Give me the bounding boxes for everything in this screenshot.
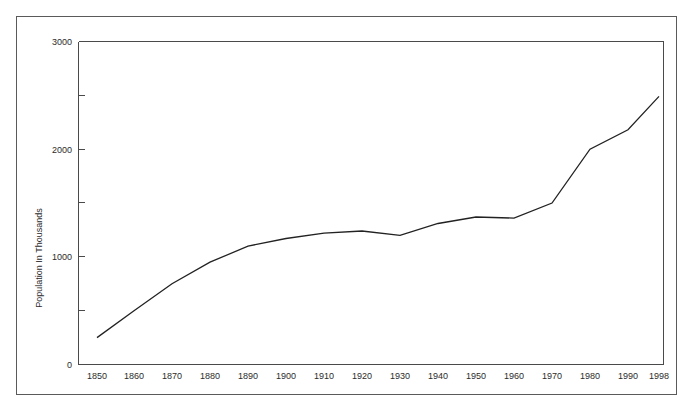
x-tick-label-1870: 1870	[162, 371, 182, 381]
x-tick-label-1998: 1998	[649, 371, 669, 381]
plot-box-top-right	[79, 42, 664, 365]
population-line-chart: 0 1000 2000 3000 Population In Thousands…	[0, 0, 694, 413]
x-tick-label-1910: 1910	[314, 371, 334, 381]
x-tick-label-1860: 1860	[124, 371, 144, 381]
x-tick-label-1900: 1900	[276, 371, 296, 381]
x-tick-label-1990: 1990	[618, 371, 638, 381]
y-axis-ticks	[79, 96, 85, 365]
y-axis-labels: 0 1000 2000 3000	[52, 37, 72, 370]
x-tick-label-1880: 1880	[200, 371, 220, 381]
x-tick-label-1850: 1850	[87, 371, 107, 381]
x-tick-label-1940: 1940	[428, 371, 448, 381]
x-tick-label-1920: 1920	[352, 371, 372, 381]
x-tick-label-1960: 1960	[504, 371, 524, 381]
y-tick-label-2000: 2000	[52, 145, 72, 155]
x-tick-label-1980: 1980	[580, 371, 600, 381]
x-tick-label-1970: 1970	[542, 371, 562, 381]
plot-axes	[79, 42, 664, 365]
y-tick-label-3000: 3000	[52, 37, 72, 47]
x-tick-label-1890: 1890	[238, 371, 258, 381]
y-tick-label-1000: 1000	[52, 252, 72, 262]
x-axis-labels: 1850 1860 1870 1880 1890 1900 1910 1920 …	[87, 371, 669, 381]
x-tick-label-1930: 1930	[390, 371, 410, 381]
population-series-line	[97, 96, 659, 337]
axis-lines	[79, 42, 664, 365]
x-tick-label-1950: 1950	[466, 371, 486, 381]
y-tick-label-0: 0	[67, 360, 72, 370]
y-axis-title: Population In Thousands	[34, 208, 44, 308]
chart-page: 0 1000 2000 3000 Population In Thousands…	[0, 0, 694, 413]
